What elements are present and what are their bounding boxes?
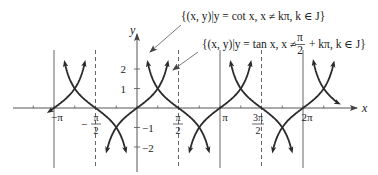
svg-text:π: π	[175, 112, 180, 123]
x-tick-neg-pi: −π	[51, 111, 63, 123]
x-tick-half-pi: π 2	[173, 112, 183, 136]
tan-cot-graph: {(x, y)|y = cot x, x ≠ kπ, k ∈ J} {(x, y…	[0, 0, 378, 175]
svg-text:2: 2	[176, 125, 181, 136]
x-tick-neg-half-pi: − π 2	[81, 112, 101, 136]
y-axis-label: y	[129, 23, 136, 37]
y-tick-2: 2	[121, 63, 127, 75]
graph-canvas: {(x, y)|y = cot x, x ≠ kπ, k ∈ J} {(x, y…	[0, 0, 378, 175]
cot-label-pointer	[150, 25, 181, 52]
tan-set-label: {(x, y)|y = tan x, x ≠ π 2 + kπ, k ∈ J}	[202, 31, 366, 56]
y-tick-neg1: −1	[142, 122, 154, 134]
x-tick-3half-pi: 3π 2	[252, 112, 264, 136]
tan-set-frac-den: 2	[297, 44, 303, 56]
tan-label-pointer	[173, 52, 198, 70]
svg-text:2: 2	[256, 125, 261, 136]
svg-text:2: 2	[94, 125, 99, 136]
tan-set-frac-num: π	[297, 31, 303, 43]
x-axis-label: x	[361, 101, 368, 115]
cot-set-label: {(x, y)|y = cot x, x ≠ kπ, k ∈ J}	[181, 10, 325, 23]
svg-text:π: π	[93, 112, 98, 123]
svg-text:−: −	[81, 118, 87, 130]
x-tick-pi: π	[222, 111, 228, 123]
tan-set-suffix: + kπ, k ∈ J}	[309, 38, 366, 51]
y-tick-1: 1	[121, 83, 127, 95]
tan-set-prefix: {(x, y)|y = tan x, x ≠	[202, 38, 296, 51]
y-tick-neg2: −2	[142, 142, 154, 154]
x-tick-2pi: 2π	[301, 111, 313, 123]
svg-text:3π: 3π	[253, 112, 263, 123]
function-curves	[50, 62, 338, 150]
